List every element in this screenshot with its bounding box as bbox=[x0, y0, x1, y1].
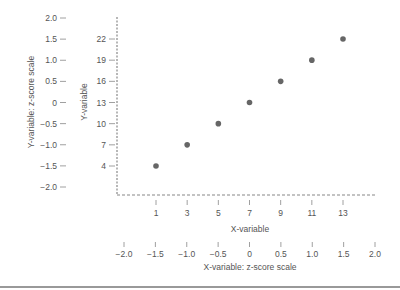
x-zscore-tick-label: 0 bbox=[247, 249, 252, 259]
data-point bbox=[340, 36, 346, 42]
x-zscore-tick-label: −2.0 bbox=[116, 249, 133, 259]
x-tick-label: 5 bbox=[216, 208, 221, 218]
y-zscore-tick-label: −0.5 bbox=[40, 119, 57, 129]
y-zscore-axis-label: Y-variable: z-score scale bbox=[26, 56, 36, 149]
y-zscore-tick-label: 1.0 bbox=[45, 55, 57, 65]
data-point bbox=[184, 142, 190, 148]
x-zscore-axis: −2.0−1.5−1.0−0.500.51.01.52.0 bbox=[116, 242, 382, 259]
data-point bbox=[216, 121, 222, 127]
y-tick-label: 16 bbox=[97, 76, 107, 86]
y-zscore-tick-label: −2.0 bbox=[40, 182, 57, 192]
x-zscore-tick-label: 2.0 bbox=[369, 249, 381, 259]
y-tick-label: 4 bbox=[101, 161, 106, 171]
x-axis-ticks: 135791113 bbox=[154, 200, 348, 218]
x-zscore-tick-label: 1.0 bbox=[306, 249, 318, 259]
x-zscore-tick-label: −1.5 bbox=[147, 249, 164, 259]
data-point bbox=[309, 57, 315, 63]
y-zscore-tick-label: −1.5 bbox=[40, 161, 57, 171]
y-axis-ticks: 471013161922 bbox=[97, 34, 115, 171]
x-tick-label: 13 bbox=[338, 208, 348, 218]
y-axis-label: Y-variable bbox=[79, 83, 89, 121]
y-tick-label: 10 bbox=[97, 119, 107, 129]
x-zscore-tick-label: 0.5 bbox=[275, 249, 287, 259]
y-zscore-tick-label: 0.5 bbox=[45, 76, 57, 86]
data-point bbox=[278, 79, 284, 85]
y-tick-label: 13 bbox=[97, 98, 107, 108]
y-zscore-axis: 2.01.51.00.50−0.5−1.0−1.5−2.0 bbox=[40, 13, 66, 192]
data-points bbox=[153, 36, 346, 169]
x-zscore-tick-label: 1.5 bbox=[338, 249, 350, 259]
y-zscore-tick-label: 2.0 bbox=[45, 13, 57, 23]
x-tick-label: 11 bbox=[307, 208, 316, 218]
x-tick-label: 1 bbox=[154, 208, 159, 218]
y-tick-label: 22 bbox=[97, 34, 107, 44]
x-axis-label: X-variable bbox=[231, 224, 270, 234]
x-zscore-tick-label: −0.5 bbox=[210, 249, 227, 259]
data-point bbox=[247, 100, 253, 106]
x-tick-label: 7 bbox=[247, 208, 252, 218]
y-zscore-tick-label: −1.0 bbox=[40, 140, 57, 150]
y-zscore-tick-label: 0 bbox=[52, 98, 57, 108]
y-tick-label: 19 bbox=[97, 55, 107, 65]
y-tick-label: 7 bbox=[101, 140, 106, 150]
x-zscore-axis-label: X-variable: z-score scale bbox=[203, 262, 296, 272]
scatter-chart: 2.01.51.00.50−0.5−1.0−1.5−2.0 4710131619… bbox=[0, 0, 400, 290]
y-zscore-tick-label: 1.5 bbox=[45, 34, 57, 44]
data-point bbox=[153, 163, 159, 169]
x-tick-label: 3 bbox=[185, 208, 190, 218]
x-zscore-tick-label: −1.0 bbox=[178, 249, 195, 259]
x-tick-label: 9 bbox=[278, 208, 283, 218]
